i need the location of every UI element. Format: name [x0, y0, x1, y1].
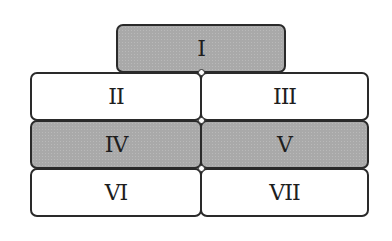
- box-ii-label: II: [108, 84, 123, 109]
- box-vi: VI: [30, 168, 202, 217]
- box-iii: III: [200, 72, 369, 121]
- joint-top: [198, 69, 205, 76]
- box-v-label: V: [277, 132, 292, 157]
- box-i: I: [116, 24, 286, 73]
- box-iv: IV: [30, 120, 202, 169]
- box-vii: VII: [200, 168, 369, 217]
- box-i-label: I: [197, 36, 205, 61]
- box-iii-label: III: [273, 84, 296, 109]
- joint-bottom: [198, 165, 205, 172]
- joint-middle: [198, 117, 205, 124]
- box-vii-label: VII: [269, 180, 299, 205]
- box-vi-label: VI: [105, 180, 128, 205]
- box-v: V: [200, 120, 369, 169]
- box-iv-label: IV: [105, 132, 128, 157]
- box-ii: II: [30, 72, 202, 121]
